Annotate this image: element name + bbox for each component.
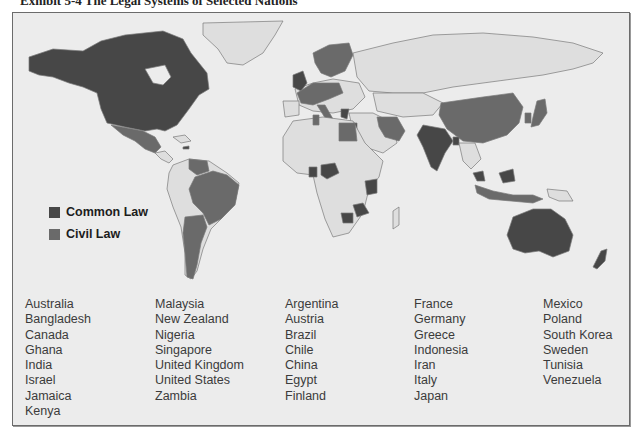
country-item: Japan [414,389,468,404]
map-legend: Common Law Civil Law [49,201,148,245]
map-figure: Common Law Civil Law Australia Banglades… [12,12,630,426]
country-item: Brazil [285,328,339,343]
country-item: India [25,358,91,373]
country-item: France [414,297,468,312]
country-item: Israel [25,373,91,388]
country-item: New Zealand [155,312,244,327]
civil-law-column-1: Argentina Austria Brazil Chile China Egy… [285,297,339,404]
country-item: Ghana [25,343,91,358]
country-item: Sweden [543,343,613,358]
country-item: Chile [285,343,339,358]
common-law-column-1: Australia Bangladesh Canada Ghana India … [25,297,91,419]
country-lists: Australia Bangladesh Canada Ghana India … [25,297,625,421]
country-item: Austria [285,312,339,327]
region-australia [507,209,573,257]
exhibit-title: Exhibit 5-4 The Legal Systems of Selecte… [20,0,297,9]
country-item: Italy [414,373,468,388]
country-item: United Kingdom [155,358,244,373]
legend-item-common-law: Common Law [49,201,148,223]
country-item: Jamaica [25,389,91,404]
region-north-america-common [29,31,209,131]
legend-label: Civil Law [66,227,120,241]
country-item: Singapore [155,343,244,358]
legend-label: Common Law [66,205,148,219]
region-russia [353,33,603,93]
country-item: Bangladesh [25,312,91,327]
country-item: South Korea [543,328,613,343]
country-item: Venezuela [543,373,613,388]
country-item: Poland [543,312,613,327]
civil-law-column-2: France Germany Greece Indonesia Iran Ita… [414,297,468,404]
region-indonesia [475,185,543,203]
civil-law-swatch [49,229,60,240]
country-item: Nigeria [155,328,244,343]
legend-item-civil-law: Civil Law [49,223,148,245]
civil-law-column-3: Mexico Poland South Korea Sweden Tunisia… [543,297,613,389]
region-greenland [203,21,283,65]
country-item: Canada [25,328,91,343]
country-item: China [285,358,339,373]
region-egypt [339,123,357,141]
country-item: Iran [414,358,468,373]
region-scandinavia [313,43,353,77]
country-item: Argentina [285,297,339,312]
country-item: Tunisia [543,358,613,373]
country-item: Greece [414,328,468,343]
country-item: United States [155,373,244,388]
common-law-column-2: Malaysia New Zealand Nigeria Singapore U… [155,297,244,404]
country-item: Australia [25,297,91,312]
region-china [439,93,523,143]
country-item: Mexico [543,297,613,312]
country-item: Malaysia [155,297,244,312]
country-item: Germany [414,312,468,327]
country-item: Indonesia [414,343,468,358]
region-new-zealand [593,249,607,269]
region-india [417,125,453,171]
country-item: Kenya [25,404,91,419]
country-item: Zambia [155,389,244,404]
country-item: Egypt [285,373,339,388]
country-item: Finland [285,389,339,404]
common-law-swatch [49,207,60,218]
region-japan [531,99,547,127]
